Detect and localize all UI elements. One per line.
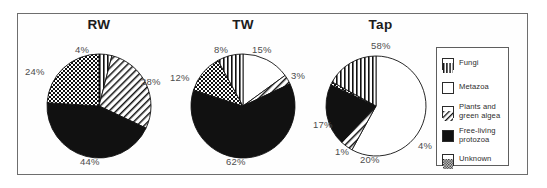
pie-label-tap-metazoa: 58% <box>371 40 391 51</box>
legend-label-fungi: Fungi <box>459 59 479 68</box>
pie-chart-tw: TW 15% 3% 62% 12% 8% <box>168 14 318 174</box>
pie-slices-rw <box>47 54 151 158</box>
pie-svg-rw <box>24 14 174 176</box>
pie-slices-tap <box>326 56 426 156</box>
pie-chart-tap: Tap 58% 4% 20% 1% 17% <box>313 14 448 174</box>
legend-swatch-solid-black-icon <box>442 130 454 142</box>
legend-item-free-living-protozoa[interactable]: Free-living protozoa <box>442 126 508 145</box>
pie-chart-rw: RW 4% 28% 44% 24% <box>24 14 174 174</box>
legend-swatch-vertical-lines-icon <box>442 58 454 70</box>
pie-canvas-rw <box>24 14 174 174</box>
pie-label-tw-fungi: 8% <box>214 44 228 55</box>
legend-label-free-living-protozoa: Free-living protozoa <box>459 127 496 144</box>
legend-label-plants-and-green-algea: Plants and green algea <box>459 103 500 120</box>
pie-label-tw-unknown: 12% <box>170 72 190 83</box>
pie-svg-tap <box>313 14 448 176</box>
legend-swatch-diagonal-hatch-icon <box>442 106 454 118</box>
pie-label-tap-protozoa: 20% <box>360 154 380 165</box>
legend-swatch-checkerboard-icon <box>442 154 454 166</box>
pie-label-tw-protozoa: 62% <box>226 156 246 167</box>
pie-label-rw-protozoa: 44% <box>80 156 100 167</box>
pie-canvas-tw <box>168 14 318 174</box>
pie-label-rw-fungi: 4% <box>75 44 89 55</box>
legend-label-unknown: Unknown <box>459 155 491 164</box>
legend-item-metazoa[interactable]: Metazoa <box>442 78 508 97</box>
pie-label-tw-plants: 3% <box>291 70 305 81</box>
legend-label-metazoa: Metazoa <box>459 83 489 92</box>
legend-item-unknown[interactable]: Unknown <box>442 150 508 169</box>
pie-slices-tw <box>191 54 295 158</box>
legend-swatch-solid-white-icon <box>442 82 454 94</box>
pie-label-tap-plants: 4% <box>418 140 432 151</box>
legend: Fungi Metazoa Plants and green algea Fre… <box>436 47 509 166</box>
pie-slice <box>47 54 99 106</box>
legend-item-fungi[interactable]: Fungi <box>442 54 508 73</box>
legend-label-protozoa-line2: protozoa <box>459 135 489 144</box>
pie-label-tap-unknown: 1% <box>335 146 349 157</box>
legend-label-plants-line2: green algea <box>459 111 500 120</box>
pie-label-rw-unknown: 24% <box>25 66 45 77</box>
pie-label-rw-plants: 28% <box>141 76 161 87</box>
legend-item-plants-and-green-algea[interactable]: Plants and green algea <box>442 102 508 121</box>
figure-frame: RW 4% 28% 44% 24% TW 15% 3% 62% 12% 8% T… <box>17 13 528 175</box>
pie-label-tw-metazoa: 15% <box>252 44 272 55</box>
pie-svg-tw <box>168 14 318 176</box>
pie-label-tap-fungi: 17% <box>313 119 333 130</box>
